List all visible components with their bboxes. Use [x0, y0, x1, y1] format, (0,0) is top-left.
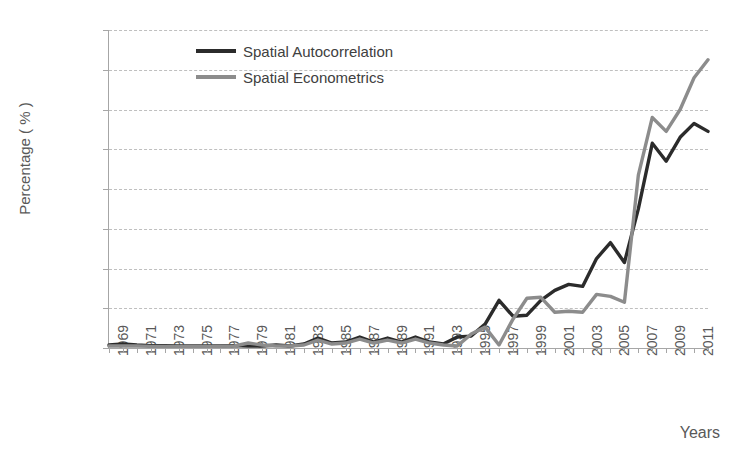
line-chart: Percentage ( % ) Years 0%2%4%6%8%10%12%1…	[0, 0, 736, 470]
series-line-spatial-econometrics	[109, 60, 708, 347]
legend: Spatial Autocorrelation Spatial Economet…	[196, 38, 393, 90]
x-axis-line	[108, 348, 708, 349]
legend-item-spatial-autocorrelation: Spatial Autocorrelation	[196, 38, 393, 64]
legend-swatch-spatial-econometrics	[196, 75, 236, 79]
legend-label-spatial-econometrics: Spatial Econometrics	[243, 69, 384, 86]
y-axis-title: Percentage ( % )	[16, 59, 33, 259]
series-line-spatial-autocorrelation	[109, 123, 708, 346]
x-axis-title: Years	[680, 424, 720, 442]
x-tick-mark	[708, 348, 709, 353]
legend-item-spatial-econometrics: Spatial Econometrics	[196, 64, 393, 90]
legend-swatch-spatial-autocorrelation	[196, 49, 236, 53]
legend-label-spatial-autocorrelation: Spatial Autocorrelation	[243, 43, 393, 60]
